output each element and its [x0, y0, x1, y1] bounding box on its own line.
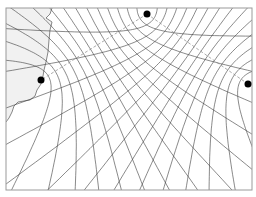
- station-slave-right: [245, 81, 252, 88]
- station-slave-left: [38, 77, 45, 84]
- station-master: [144, 11, 151, 18]
- baseline-dashed: [41, 14, 147, 80]
- hyperbola-line: [226, 0, 256, 197]
- hyperbola-line: [126, 0, 256, 197]
- hyperbolic-chart: [0, 0, 256, 197]
- baseline-dashed: [147, 14, 248, 84]
